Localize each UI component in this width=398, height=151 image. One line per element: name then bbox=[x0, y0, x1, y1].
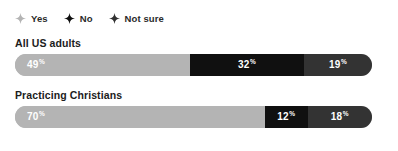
four-point-star-icon bbox=[64, 13, 75, 24]
four-point-star-icon bbox=[15, 13, 26, 24]
bar-group-title: All US adults bbox=[15, 37, 372, 50]
bar-segment-value: 32% bbox=[238, 60, 256, 70]
bar-segment-value: 12% bbox=[277, 112, 295, 122]
stacked-bar: 49% 32% 19% bbox=[15, 54, 372, 76]
legend-item-yes: Yes bbox=[15, 11, 48, 25]
four-point-star-icon bbox=[109, 13, 120, 24]
legend-label-not-sure: Not sure bbox=[125, 13, 164, 24]
bar-group-title: Practicing Christians bbox=[15, 89, 372, 102]
bar-segment-value: 49% bbox=[27, 60, 45, 70]
bar-segment-no: 32% bbox=[190, 54, 304, 76]
legend-label-no: No bbox=[80, 13, 93, 24]
stacked-bar: 70% 12% 18% bbox=[15, 106, 372, 128]
bar-segment-not-sure: 19% bbox=[304, 54, 372, 76]
legend-item-no: No bbox=[64, 11, 93, 25]
bar-segment-not-sure: 18% bbox=[308, 106, 372, 128]
bar-segment-yes: 49% bbox=[15, 54, 190, 76]
bar-group: Practicing Christians 70% 12% 18% bbox=[15, 89, 372, 128]
legend-label-yes: Yes bbox=[31, 13, 48, 24]
bar-segment-value: 19% bbox=[329, 60, 347, 70]
bar-segment-value: 18% bbox=[331, 112, 349, 122]
bar-group: All US adults 49% 32% 19% bbox=[15, 37, 372, 76]
legend-item-not-sure: Not sure bbox=[109, 11, 164, 25]
bar-segment-no: 12% bbox=[265, 106, 308, 128]
chart-legend: Yes No Not sure bbox=[15, 11, 164, 25]
bar-segment-value: 70% bbox=[27, 112, 45, 122]
stacked-bar-chart: Yes No Not sure All US adults 49% 32% bbox=[0, 0, 398, 151]
bar-segment-yes: 70% bbox=[15, 106, 265, 128]
